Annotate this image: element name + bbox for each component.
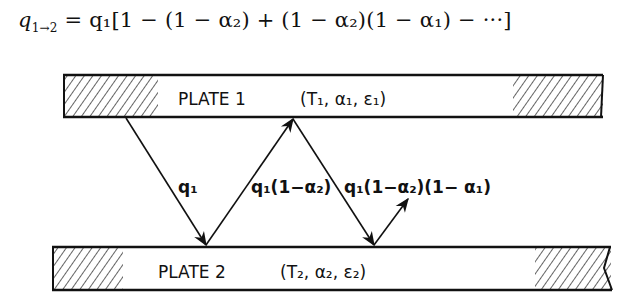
ray-label-1: q₁ — [178, 177, 198, 197]
ray-reflected-3-arrow — [374, 199, 408, 245]
plate-1-hatch-right — [513, 75, 603, 117]
plate-2: PLATE 2 (T₂, α₂, ε₂) — [52, 247, 612, 290]
plate-1-properties: (T₁, α₁, ε₁) — [300, 89, 386, 109]
ray-label-2: q₁(1−α₂) — [251, 177, 331, 197]
plate-1: PLATE 1 (T₁, α₁, ε₁) — [63, 75, 603, 117]
plate-2-properties: (T₂, α₂, ε₂) — [280, 262, 366, 282]
plate-2-hatch-right — [535, 247, 611, 290]
ray-label-3: q₁(1−α₂)(1− α₁) — [344, 177, 491, 197]
plates-diagram: PLATE 1 (T₁, α₁, ε₁) PLATE 2 (T₂, α₂, ε₂… — [0, 0, 628, 302]
plate-2-label: PLATE 2 — [158, 262, 226, 282]
plate-1-hatch-left — [63, 75, 158, 117]
plate-1-label: PLATE 1 — [178, 89, 246, 109]
plate-2-hatch-left — [53, 247, 123, 290]
